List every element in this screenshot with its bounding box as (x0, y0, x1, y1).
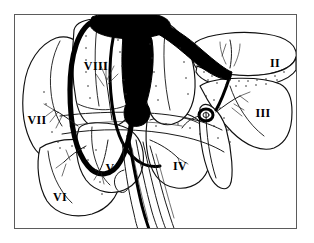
segment-label-vii: VII (27, 113, 46, 127)
segment-label-iv: IV (173, 159, 187, 173)
figure-root: VIII VII VI V IV I II III (0, 0, 314, 243)
segment-label-iii: III (255, 106, 270, 120)
liver-segments-diagram: VIII VII VI V IV I II III (0, 0, 314, 243)
segment-label-i: I (135, 92, 140, 106)
segment-label-vi: VI (53, 190, 67, 204)
segment-label-v: V (105, 161, 114, 175)
segment-label-ii: II (270, 56, 280, 70)
segment-label-viii: VIII (84, 59, 108, 73)
